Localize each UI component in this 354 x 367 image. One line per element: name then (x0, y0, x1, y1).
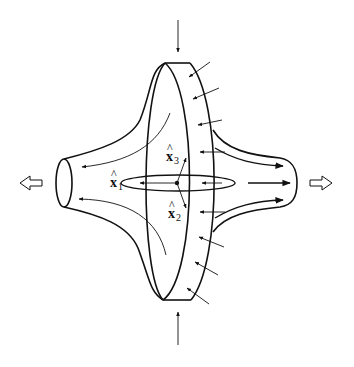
lower-left-flare (64, 207, 163, 300)
vortex-stretching-diagram (0, 0, 354, 367)
left-tube-opening (56, 159, 72, 207)
label-x3: ^x3 (166, 150, 179, 166)
label-x2: ^x2 (168, 207, 181, 223)
lower-right-flare (213, 183, 297, 232)
hollow-arrow-left-icon (20, 176, 42, 190)
upper-right-flare (213, 130, 297, 183)
label-x1: ^x1 (110, 176, 123, 192)
disk-front-edge (146, 63, 165, 300)
center-point (175, 181, 179, 185)
hollow-arrow-right-icon (310, 176, 332, 190)
